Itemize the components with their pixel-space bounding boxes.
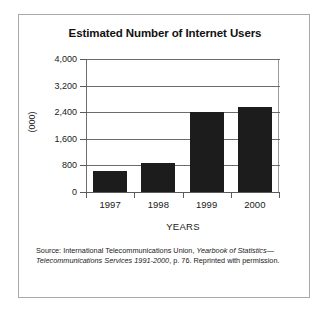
x-axis-tick <box>86 193 87 198</box>
y-axis-tick <box>80 112 87 113</box>
source-note-suffix: , p. 76. Reprinted with permission. <box>169 256 279 265</box>
y-axis-tick-label: 4,000 <box>54 54 77 64</box>
y-axis-tick-label: 1,600 <box>54 134 77 144</box>
bar-1999 <box>190 112 224 192</box>
y-axis-tick <box>80 139 87 140</box>
source-note-publication-1: Yearbook of Statistics <box>197 246 267 255</box>
chart-title: Estimated Number of Internet Users <box>19 27 311 39</box>
y-axis-tick-label: 2,400 <box>54 107 77 117</box>
y-axis-tick-label: 800 <box>62 160 77 170</box>
bar-2000 <box>238 107 272 192</box>
x-axis-tick-label: 1997 <box>86 199 134 210</box>
figure-frame: Estimated Number of Internet Users (000)… <box>18 14 310 298</box>
bar-chart: (000) 08001,6002,4003,2004,000 199719981… <box>19 49 311 249</box>
gridline <box>87 59 280 60</box>
y-axis-tick <box>80 165 87 166</box>
x-axis-tick <box>231 193 232 198</box>
x-axis-tick <box>134 193 135 198</box>
y-axis-tick-label: 3,200 <box>54 81 77 91</box>
y-axis-tick <box>80 59 87 60</box>
bar-1998 <box>141 163 175 192</box>
y-axis-title: (000) <box>27 102 37 142</box>
source-note-dash: — <box>267 246 274 255</box>
bar-1997 <box>93 171 127 192</box>
y-axis-tick <box>80 86 87 87</box>
x-axis-title: YEARS <box>86 221 280 232</box>
source-note-publication-2: Telecommunications Services 1991-2000 <box>36 256 169 265</box>
source-note: Source: International Telecommunications… <box>36 246 294 266</box>
x-axis-tick-label: 1998 <box>134 199 182 210</box>
x-axis-tick-label: 2000 <box>231 199 279 210</box>
x-axis-tick <box>183 193 184 198</box>
gridline <box>87 86 280 87</box>
y-axis-tick-label: 0 <box>72 187 77 197</box>
x-axis-tick-label: 1999 <box>183 199 231 210</box>
source-note-prefix: Source: International Telecommunications… <box>36 246 194 255</box>
x-axis-tick <box>279 193 280 198</box>
